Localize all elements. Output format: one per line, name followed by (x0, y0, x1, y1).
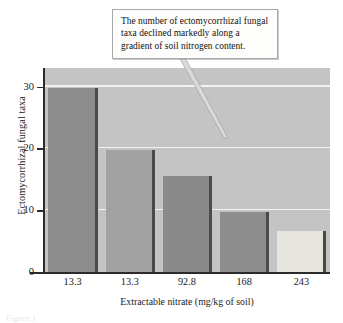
bar (48, 88, 97, 272)
x-axis-tick-label: 92.8 (158, 276, 215, 287)
x-axis-label: Extractable nitrate (mg/kg of soil) (44, 296, 330, 307)
bar-face (277, 231, 323, 272)
callout-box: The number of ectomycorrhizal fungal tax… (112, 9, 278, 59)
y-axis-tick (37, 148, 44, 150)
bar (277, 231, 326, 272)
bar (220, 212, 269, 272)
bar (163, 176, 212, 272)
x-axis-tick-label: 13.3 (101, 276, 158, 287)
y-axis-tick-label: 0 (29, 267, 34, 277)
bar-shadow-edge (152, 150, 155, 272)
y-axis-line (43, 68, 45, 273)
bar-shadow-edge (209, 176, 212, 272)
figure-caption-partial: Figure 1 (6, 313, 36, 323)
y-axis-label: Ectomycorrhizal fungal taxa (16, 61, 27, 251)
bar-face (48, 88, 94, 272)
bar (106, 150, 155, 272)
x-axis-line (30, 272, 330, 274)
y-axis-tick (37, 87, 44, 89)
gridline (44, 85, 330, 87)
bar-face (163, 176, 209, 272)
chart-plot-area (44, 68, 330, 272)
bar-face (220, 212, 266, 272)
y-axis-tick (37, 210, 44, 212)
x-axis-tick-label: 168 (216, 276, 273, 287)
callout-text: The number of ectomycorrhizal fungal tax… (121, 15, 270, 52)
x-axis-tick-label: 13.3 (44, 276, 101, 287)
y-axis-tick (37, 272, 44, 274)
bar-shadow-edge (95, 88, 98, 272)
bar-shadow-edge (266, 212, 269, 272)
bar-face (106, 150, 152, 272)
bar-shadow-edge (323, 231, 326, 272)
x-axis-tick-label: 243 (273, 276, 330, 287)
